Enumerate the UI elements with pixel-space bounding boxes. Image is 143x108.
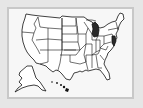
state-alaska[interactable] bbox=[15, 66, 46, 92]
state-michigan[interactable] bbox=[92, 22, 99, 37]
state-west-coast[interactable] bbox=[22, 13, 124, 80]
us-map bbox=[0, 0, 143, 108]
state-new-jersey[interactable] bbox=[112, 36, 116, 46]
state-hawaii[interactable] bbox=[51, 81, 69, 92]
